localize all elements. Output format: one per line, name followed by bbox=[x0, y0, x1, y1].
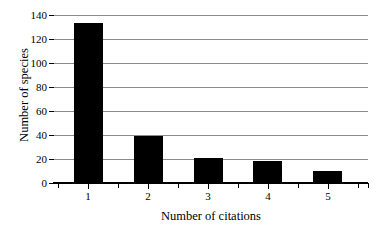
gridline bbox=[53, 15, 368, 16]
x-axis-tick-label: 5 bbox=[308, 190, 348, 203]
x-axis-tick-label: 4 bbox=[248, 190, 288, 203]
bar bbox=[134, 136, 163, 183]
x-axis-minor-tick-mark bbox=[358, 184, 359, 188]
x-axis-title: Number of citations bbox=[53, 209, 369, 224]
x-axis-tick-label: 1 bbox=[68, 190, 108, 203]
bar bbox=[194, 158, 223, 183]
x-axis-tick-mark bbox=[88, 184, 89, 189]
y-axis-tick-mark bbox=[49, 135, 54, 136]
y-axis-tick-label: 60 bbox=[17, 106, 47, 117]
y-axis-tick-label: 120 bbox=[17, 34, 47, 45]
y-axis-tick-mark bbox=[49, 87, 54, 88]
x-axis-line bbox=[53, 183, 369, 184]
bar bbox=[313, 171, 342, 183]
y-axis-tick-label: 80 bbox=[17, 82, 47, 93]
bar bbox=[74, 23, 103, 183]
bar bbox=[253, 161, 282, 183]
x-axis-tick-mark bbox=[328, 184, 329, 189]
x-axis-tick-mark bbox=[148, 184, 149, 189]
x-axis-end-tick-mark bbox=[368, 184, 369, 188]
y-axis-tick-mark bbox=[49, 111, 54, 112]
y-axis-tick-label: 140 bbox=[17, 10, 47, 21]
y-axis-tick-mark bbox=[49, 63, 54, 64]
x-axis-minor-tick-mark bbox=[238, 184, 239, 188]
y-axis-tick-mark bbox=[49, 159, 54, 160]
x-axis-tick-label: 3 bbox=[188, 190, 228, 203]
y-axis-tick-label: 40 bbox=[17, 130, 47, 141]
x-axis-minor-tick-mark bbox=[118, 184, 119, 188]
x-axis-tick-mark bbox=[208, 184, 209, 189]
y-axis-tick-mark bbox=[49, 39, 54, 40]
x-axis-minor-tick-mark bbox=[298, 184, 299, 188]
y-axis-tick-label: 20 bbox=[17, 154, 47, 165]
y-axis-tick-labels: 020406080100120140 bbox=[17, 15, 47, 183]
x-axis-tick-label: 2 bbox=[128, 190, 168, 203]
x-axis-tick-mark bbox=[268, 184, 269, 189]
plot-area bbox=[53, 15, 368, 183]
x-axis-minor-tick-mark bbox=[178, 184, 179, 188]
y-axis-tick-label: 100 bbox=[17, 58, 47, 69]
x-axis-minor-tick-mark bbox=[58, 184, 59, 188]
y-axis-tick-mark bbox=[49, 15, 54, 16]
bar-chart-figure: Number of species 020406080100120140 Num… bbox=[0, 0, 377, 235]
y-axis-tick-mark bbox=[49, 183, 54, 184]
y-axis-tick-label: 0 bbox=[17, 178, 47, 189]
